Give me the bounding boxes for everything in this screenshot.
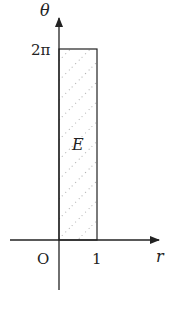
origin-label: O [37, 250, 49, 268]
polar-region-diagram: θ 2π E O 1 r [0, 0, 177, 311]
theta-axis-label: θ [40, 1, 50, 20]
r-tick-label: 1 [92, 250, 102, 268]
region-label: E [71, 135, 84, 154]
r-axis-label: r [156, 247, 165, 266]
theta-tick-label: 2π [31, 41, 51, 59]
